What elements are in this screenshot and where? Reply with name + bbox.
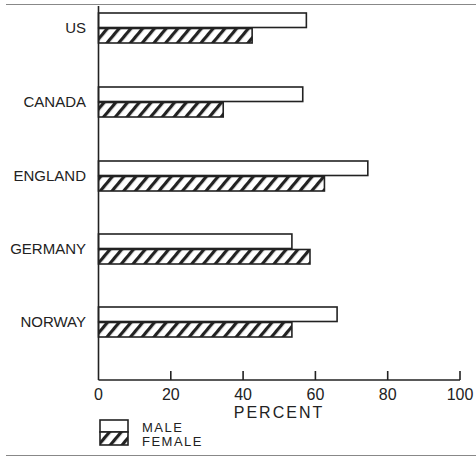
bar-female	[99, 177, 325, 192]
x-tick-label: 20	[162, 386, 180, 403]
bar-female	[99, 250, 310, 265]
x-tick-label: 100	[447, 386, 474, 403]
category-label: CANADA	[23, 93, 86, 110]
bar-male	[99, 13, 307, 28]
bar-male	[99, 87, 303, 102]
category-label: US	[65, 19, 86, 36]
bar-chart: USCANADAENGLANDGERMANYNORWAY 02040608010…	[0, 0, 476, 459]
category-label: NORWAY	[20, 313, 86, 330]
x-tick-label: 0	[94, 386, 103, 403]
legend-swatch-female	[100, 432, 128, 445]
category-label: GERMANY	[10, 240, 86, 257]
legend-swatch-male	[100, 420, 128, 432]
bar-male	[99, 307, 338, 322]
category-label: ENGLAND	[13, 167, 86, 184]
x-tick-label: 40	[234, 386, 252, 403]
legend-label-male: MALE	[142, 420, 183, 435]
x-tick-label: 80	[379, 386, 397, 403]
x-tick-label: 60	[307, 386, 325, 403]
legend-label-female: FEMALE	[142, 434, 203, 449]
bar-female	[99, 103, 224, 118]
x-axis-label: PERCENT	[234, 404, 324, 421]
legend: MALEFEMALE	[100, 420, 203, 449]
bar-male	[99, 234, 292, 249]
bar-male	[99, 161, 368, 176]
bar-female	[99, 29, 253, 44]
bar-female	[99, 323, 292, 338]
